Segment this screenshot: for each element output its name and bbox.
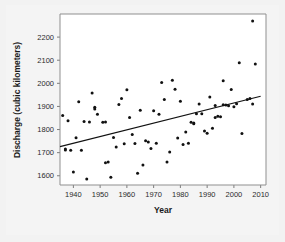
data-point xyxy=(149,147,152,150)
x-axis-title: Year xyxy=(154,205,173,215)
figure-container: 1600170018001900200021002200 19401950196… xyxy=(0,0,285,242)
data-point xyxy=(93,107,96,110)
data-point xyxy=(230,88,233,91)
y-tick-label: 1900 xyxy=(37,102,54,111)
data-point xyxy=(64,149,67,152)
data-point xyxy=(155,142,158,145)
data-point xyxy=(232,105,235,108)
x-tick-label: 2010 xyxy=(252,190,269,199)
data-point xyxy=(160,81,163,84)
y-tick-label: 1700 xyxy=(37,148,54,157)
data-point xyxy=(206,132,209,135)
data-point xyxy=(168,150,171,153)
data-point xyxy=(96,113,99,116)
data-point xyxy=(104,161,107,164)
x-tick-label: 1960 xyxy=(119,190,136,199)
data-point xyxy=(85,177,88,180)
data-point xyxy=(179,100,182,103)
data-point xyxy=(80,149,83,152)
data-point xyxy=(69,149,72,152)
figure-canvas: 1600170018001900200021002200 19401950196… xyxy=(6,5,279,235)
x-tick-label: 1990 xyxy=(199,190,216,199)
data-point xyxy=(112,136,115,139)
data-point xyxy=(67,119,70,122)
data-point xyxy=(222,79,225,82)
data-point xyxy=(240,132,243,135)
data-point xyxy=(128,116,131,119)
data-point xyxy=(117,103,120,106)
data-point xyxy=(214,104,217,107)
data-point xyxy=(166,160,169,163)
data-point xyxy=(131,133,134,136)
x-tick-label: 2000 xyxy=(226,190,243,199)
data-point xyxy=(139,109,142,112)
x-tick-label: 1970 xyxy=(145,190,162,199)
data-point xyxy=(101,121,104,124)
y-tick-label: 1800 xyxy=(37,125,54,134)
data-point xyxy=(176,137,179,140)
data-point xyxy=(104,120,107,123)
data-point xyxy=(109,176,112,179)
data-point xyxy=(208,95,211,98)
data-point xyxy=(203,129,206,132)
y-axis-title: Discharge (cubic kilometers) xyxy=(12,42,22,158)
y-tick-label: 2100 xyxy=(37,56,54,65)
data-point xyxy=(219,115,222,118)
data-point xyxy=(88,120,91,123)
data-point xyxy=(251,102,254,105)
data-point xyxy=(187,142,190,145)
data-point xyxy=(192,122,195,125)
data-point xyxy=(238,61,241,64)
data-point xyxy=(174,88,177,91)
data-point xyxy=(75,136,78,139)
data-point xyxy=(157,113,160,116)
data-point xyxy=(144,139,147,142)
data-point xyxy=(115,146,118,149)
data-point xyxy=(200,112,203,115)
data-point xyxy=(125,88,128,91)
data-point xyxy=(91,92,94,95)
data-point xyxy=(251,19,254,22)
data-point xyxy=(123,142,126,145)
x-axis-ticks: 19401950196019701980199020002010 xyxy=(65,185,269,199)
scatter-chart: 1600170018001900200021002200 19401950196… xyxy=(6,5,279,235)
data-point xyxy=(163,98,166,101)
data-point xyxy=(147,141,150,144)
data-point xyxy=(171,79,174,82)
data-point xyxy=(77,100,80,103)
data-point xyxy=(198,103,201,106)
y-axis-ticks: 1600170018001900200021002200 xyxy=(37,33,60,181)
data-point xyxy=(216,115,219,118)
data-point xyxy=(61,114,64,117)
y-tick-label: 2200 xyxy=(37,33,54,42)
data-point xyxy=(254,62,257,65)
data-point xyxy=(141,163,144,166)
x-tick-label: 1950 xyxy=(92,190,109,199)
data-point xyxy=(152,109,155,112)
data-point xyxy=(182,143,185,146)
data-point xyxy=(83,120,86,123)
data-point xyxy=(107,161,110,164)
data-point xyxy=(72,171,75,174)
data-point xyxy=(184,131,187,134)
data-point xyxy=(133,142,136,145)
x-tick-label: 1940 xyxy=(65,190,82,199)
data-point xyxy=(214,116,217,119)
data-point xyxy=(211,127,214,130)
x-tick-label: 1980 xyxy=(172,190,189,199)
data-point xyxy=(120,97,123,100)
y-tick-label: 2000 xyxy=(37,79,54,88)
y-tick-label: 1600 xyxy=(37,171,54,180)
data-point xyxy=(190,121,193,124)
data-point xyxy=(136,172,139,175)
